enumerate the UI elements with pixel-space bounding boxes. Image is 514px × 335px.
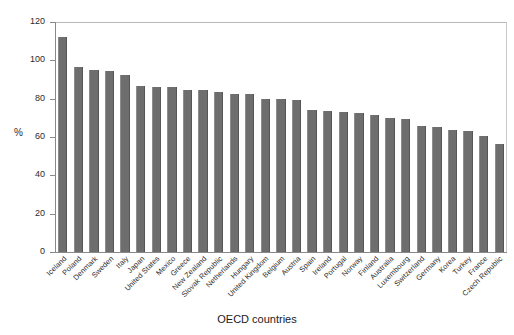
y-axis-tick-label: 60 bbox=[35, 131, 45, 141]
bar bbox=[432, 127, 441, 252]
bar bbox=[401, 119, 410, 252]
bar bbox=[105, 71, 114, 252]
bar bbox=[198, 90, 207, 252]
x-axis-title: OECD countries bbox=[0, 313, 514, 325]
bar bbox=[58, 37, 67, 252]
bar bbox=[261, 99, 270, 252]
y-axis-tick-mark bbox=[50, 252, 55, 253]
bar bbox=[245, 94, 254, 252]
bar bbox=[479, 136, 488, 252]
y-axis-tick-label: 120 bbox=[30, 16, 45, 26]
y-axis-tick-label: 20 bbox=[35, 208, 45, 218]
bar bbox=[307, 110, 316, 252]
bar bbox=[323, 111, 332, 252]
bar bbox=[385, 118, 394, 252]
x-axis-line bbox=[55, 252, 507, 253]
y-axis-tick-label: 0 bbox=[40, 246, 45, 256]
bar bbox=[292, 100, 301, 252]
bar bbox=[448, 130, 457, 252]
y-axis-tick-label: 40 bbox=[35, 169, 45, 179]
bar bbox=[276, 99, 285, 252]
bar-series bbox=[55, 22, 507, 252]
bar bbox=[120, 75, 129, 252]
bar bbox=[463, 131, 472, 252]
bar bbox=[89, 70, 98, 252]
bar bbox=[370, 115, 379, 252]
bar bbox=[183, 90, 192, 252]
bar bbox=[167, 87, 176, 252]
bar bbox=[214, 92, 223, 252]
y-axis-label: % bbox=[14, 127, 23, 138]
bar bbox=[74, 67, 83, 252]
bar bbox=[354, 113, 363, 252]
bar bbox=[417, 126, 426, 253]
bar bbox=[230, 94, 239, 252]
y-axis-tick-label: 80 bbox=[35, 93, 45, 103]
bar bbox=[152, 87, 161, 252]
y-axis-tick-label: 100 bbox=[30, 54, 45, 64]
x-axis-tick-labels: IcelandPolandDenmarkSwedenItalyJapanUnit… bbox=[55, 254, 507, 312]
bar bbox=[136, 86, 145, 252]
bar bbox=[495, 144, 504, 252]
bar-chart: % 020406080100120 IcelandPolandDenmarkSw… bbox=[0, 0, 514, 335]
bar bbox=[339, 112, 348, 252]
